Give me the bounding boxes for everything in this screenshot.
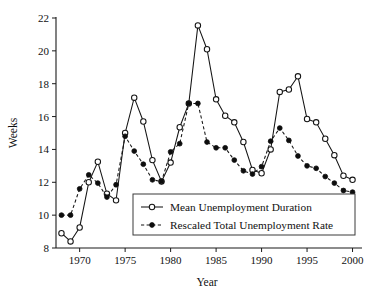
data-point — [323, 174, 328, 179]
data-point — [296, 154, 301, 159]
data-point — [95, 159, 100, 164]
data-point — [159, 179, 164, 184]
y-tick-label: 20 — [38, 45, 50, 57]
data-point — [313, 120, 318, 125]
y-tick-label: 16 — [38, 111, 50, 123]
data-point — [59, 231, 64, 236]
data-point — [232, 158, 237, 163]
data-point — [341, 188, 346, 193]
x-tick-label: 1975 — [114, 254, 137, 266]
data-point — [332, 181, 337, 186]
data-point — [68, 213, 73, 218]
data-point — [177, 125, 182, 130]
data-point — [105, 195, 110, 200]
data-point — [259, 164, 264, 169]
data-point — [150, 157, 155, 162]
chart-legend: Mean Unemployment DurationRescaled Total… — [133, 194, 355, 235]
data-point — [123, 134, 128, 139]
x-axis-title: Year — [196, 276, 217, 288]
x-tick-label: 1985 — [205, 254, 228, 266]
data-point — [132, 149, 137, 154]
data-point — [259, 171, 264, 176]
data-point — [268, 139, 273, 144]
data-point — [141, 119, 146, 124]
data-point — [86, 172, 91, 177]
data-point — [350, 177, 355, 182]
data-point — [177, 141, 182, 146]
y-tick-label: 14 — [38, 143, 50, 155]
x-tick-label: 1995 — [296, 254, 319, 266]
data-point — [222, 113, 227, 118]
y-tick-label: 10 — [38, 209, 50, 221]
data-point — [241, 139, 246, 144]
data-point — [304, 116, 309, 121]
y-tick-label: 12 — [38, 176, 49, 188]
data-point — [95, 181, 100, 186]
x-axis-ticks: 1970197519801985199019952000 — [69, 248, 364, 266]
data-point — [77, 225, 82, 230]
data-point — [286, 138, 291, 143]
y-axis-ticks: 810121416182022 — [38, 12, 56, 254]
legend-label-1: Mean Unemployment Duration — [170, 201, 312, 213]
data-point — [214, 145, 219, 150]
data-point — [132, 95, 137, 100]
data-point — [250, 172, 255, 177]
data-point — [114, 182, 119, 187]
data-point — [186, 101, 191, 106]
y-tick-label: 22 — [38, 12, 49, 24]
data-point — [305, 163, 310, 168]
data-point — [323, 136, 328, 141]
data-point — [195, 23, 200, 28]
chart-figure: 810121416182022 197019751980198519901995… — [0, 0, 385, 297]
x-tick-label: 1970 — [69, 254, 92, 266]
data-point — [277, 89, 282, 94]
data-point — [223, 145, 228, 150]
x-tick-label: 1990 — [251, 254, 274, 266]
data-point — [205, 140, 210, 145]
data-point — [277, 126, 282, 131]
y-tick-label: 8 — [44, 242, 50, 254]
data-point — [86, 180, 91, 185]
legend-marker-1 — [149, 204, 154, 209]
legend-marker-2 — [150, 223, 155, 228]
data-point — [141, 162, 146, 167]
data-point — [213, 97, 218, 102]
data-point — [295, 74, 300, 79]
data-point — [59, 213, 64, 218]
data-point — [332, 152, 337, 157]
data-point — [204, 47, 209, 52]
data-point — [113, 198, 118, 203]
x-tick-label: 2000 — [342, 254, 365, 266]
data-point — [241, 168, 246, 173]
x-tick-label: 1980 — [160, 254, 183, 266]
data-point — [196, 101, 201, 106]
data-point — [314, 166, 319, 171]
legend-label-2: Rescaled Total Unemployment Rate — [170, 219, 333, 231]
y-tick-label: 18 — [38, 78, 50, 90]
y-axis-title: Weeks — [7, 117, 19, 148]
unemployment-line-chart: 810121416182022 197019751980198519901995… — [0, 0, 385, 297]
data-point — [232, 120, 237, 125]
data-point — [286, 87, 291, 92]
data-point — [77, 186, 82, 191]
data-point — [68, 239, 73, 244]
data-point — [168, 149, 173, 154]
data-point — [168, 160, 173, 165]
data-point — [341, 173, 346, 178]
data-point — [150, 177, 155, 182]
